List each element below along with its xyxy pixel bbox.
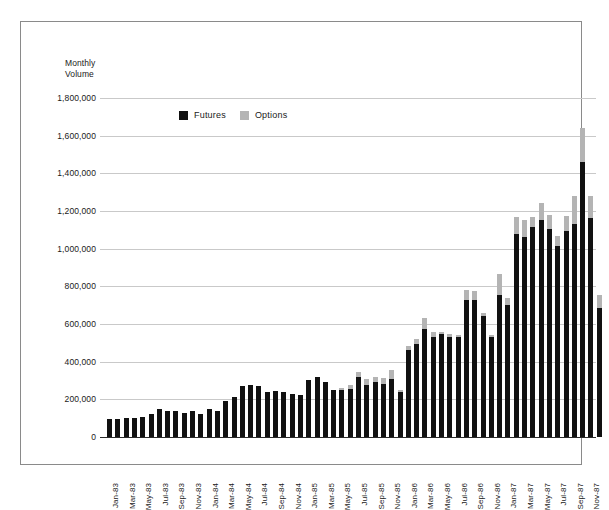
bar-segment-futures [356,377,361,437]
plot-area [100,98,596,437]
bar-feb-84 [215,411,220,437]
bar-jun-87 [547,215,552,437]
bar-oct-86 [481,313,486,437]
x-tick-label: May-87 [543,483,552,510]
bar-apr-86 [431,332,436,437]
bar-mar-87 [522,220,527,437]
x-tick-label: Jul-86 [460,483,469,505]
bar-jan-87 [505,298,510,437]
bar-segment-futures [315,377,320,437]
bar-segment-futures [331,390,336,437]
bar-segment-options [489,335,494,337]
bar-segment-futures [273,391,278,437]
bar-segment-futures [232,397,237,437]
y-tick-label: 0 [36,432,96,442]
bar-jun-83 [149,414,154,437]
bar-nov-83 [190,411,195,437]
bar-segment-futures [207,409,212,437]
bar-segment-futures [547,229,552,437]
gridline [100,211,596,212]
bar-segment-options [364,379,369,386]
bar-segment-options [348,385,353,389]
bar-segment-futures [489,337,494,437]
bar-sep-86 [472,291,477,437]
bar-segment-options [422,318,427,328]
gridline [100,437,596,438]
bar-segment-futures [464,300,469,437]
gridline [100,173,596,174]
bar-segment-futures [481,316,486,437]
bar-segment-futures [406,350,411,437]
bar-dec-87 [597,295,602,437]
bar-segment-futures [564,231,569,437]
bar-segment-futures [298,395,303,437]
bar-segment-options [597,295,602,308]
bar-dec-85 [398,390,403,437]
y-tick-label: 1,400,000 [36,168,96,178]
y-tick-label: 600,000 [36,319,96,329]
y-tick-label: 1,200,000 [36,206,96,216]
bar-jan-85 [306,380,311,437]
bar-dec-83 [198,414,203,437]
y-tick-label: 1,600,000 [36,131,96,141]
bar-segment-futures [348,389,353,437]
bar-apr-87 [530,217,535,437]
bar-aug-83 [165,411,170,437]
bar-segment-futures [373,382,378,437]
y-axis-tick-labels: 1,800,0001,600,0001,400,0001,200,0001,00… [32,98,96,437]
bar-segment-futures [381,384,386,437]
bar-segment-futures [456,337,461,437]
y-axis-title: Monthly Volume [65,58,135,80]
x-tick-label: Jul-83 [161,483,170,505]
bar-segment-options [539,203,544,221]
bar-segment-futures [115,419,120,437]
bar-nov-87 [588,196,593,437]
bar-may-84 [240,386,245,437]
bar-dec-84 [298,395,303,437]
bar-segment-options [514,217,519,234]
bar-segment-futures [173,411,178,437]
bar-jan-86 [406,346,411,437]
bar-segment-futures [422,329,427,437]
x-tick-label: Nov-87 [592,483,601,509]
bar-segment-options [497,274,502,295]
bar-segment-futures [431,337,436,437]
bar-segment-options [398,390,403,392]
bar-segment-options [439,332,444,334]
bar-jul-86 [456,335,461,437]
bar-segment-futures [215,411,220,437]
x-tick-label: Sep-85 [377,483,386,509]
bar-oct-87 [580,128,585,437]
bar-aug-86 [464,290,469,437]
bar-may-86 [439,332,444,437]
x-tick-label: Jan-86 [410,483,419,508]
bar-feb-86 [414,339,419,437]
bar-segment-futures [306,380,311,437]
bar-nov-86 [489,335,494,437]
bar-segment-futures [505,305,510,437]
bar-apr-84 [232,397,237,437]
bar-segment-options [588,196,593,218]
bar-segment-options [572,196,577,224]
bar-segment-futures [157,409,162,437]
bar-segment-options [530,217,535,227]
bar-segment-options [389,370,394,378]
bar-jul-85 [356,372,361,437]
bar-mar-86 [422,318,427,437]
bar-sep-84 [273,391,278,437]
bar-segment-futures [190,411,195,437]
bar-segment-futures [198,414,203,437]
bar-oct-85 [381,378,386,437]
bar-jul-87 [555,235,560,437]
bar-jul-83 [157,409,162,437]
x-tick-label: Jul-87 [559,483,568,505]
bar-segment-options [356,372,361,377]
bar-segment-futures [265,392,270,437]
bar-segment-futures [572,224,577,437]
y-tick-label: 1,800,000 [36,93,96,103]
bar-segment-futures [514,234,519,437]
bar-segment-futures [132,418,137,437]
bar-segment-futures [240,386,245,437]
bar-segment-futures [223,401,228,437]
